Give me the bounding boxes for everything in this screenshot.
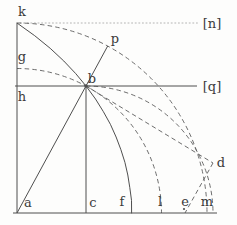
label-l: l xyxy=(158,194,162,209)
quarter-arc-k-to-m-center-a xyxy=(17,23,207,213)
label-q: [q] xyxy=(203,79,221,94)
figure-stage: k[n]pgb[q]hdacflem xyxy=(0,0,237,225)
label-c: c xyxy=(89,195,96,210)
quadratrix-k-b-f xyxy=(17,23,132,213)
arc-b-to-m-center-c xyxy=(86,86,213,213)
label-n: [n] xyxy=(203,16,222,31)
label-f: f xyxy=(120,194,126,209)
label-d: d xyxy=(217,155,225,170)
segment-b-d xyxy=(86,86,213,163)
label-a: a xyxy=(24,195,32,210)
label-m: m xyxy=(201,194,213,209)
label-e: e xyxy=(181,194,189,209)
dashed-curves-layer xyxy=(17,23,213,213)
label-p: p xyxy=(111,31,119,46)
diagram-canvas: k[n]pgb[q]hdacflem xyxy=(0,0,237,225)
label-g: g xyxy=(18,49,26,64)
label-k: k xyxy=(18,4,26,19)
solid-lines-layer xyxy=(13,23,217,213)
points-layer xyxy=(84,84,185,210)
label-h: h xyxy=(18,89,27,104)
label-b: b xyxy=(88,71,96,86)
